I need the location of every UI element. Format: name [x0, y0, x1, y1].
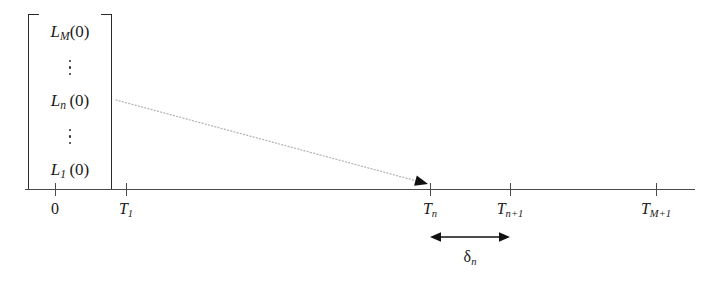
arrowhead-icon: [414, 176, 428, 186]
axis-tick-3: [510, 183, 511, 196]
vector-entry-LM: LM(0): [51, 23, 90, 43]
timeline-figure: LM(0) Ln (0) L1 (0) 0T1TnTn+1TM+1: [0, 0, 710, 296]
delta-interval-arrow: [420, 228, 520, 246]
axis-tick-label-1: T1: [119, 200, 133, 219]
axis-tick-2: [430, 183, 431, 196]
delta-arrow-right-head-icon: [499, 232, 510, 241]
delta-n-label: δn: [464, 248, 477, 267]
vertical-ellipsis-upper: [69, 56, 71, 79]
initial-lengths-vector: LM(0) Ln (0) L1 (0): [28, 14, 112, 190]
axis-tick-label-2: Tn: [423, 200, 437, 219]
axis-tick-label-3: Tn+1: [497, 200, 524, 219]
vertical-ellipsis-lower: [69, 125, 71, 148]
axis-tick-1: [126, 183, 127, 196]
vector-entry-Ln: Ln (0): [51, 92, 89, 112]
left-bracket: [28, 14, 39, 190]
vector-entry-L1: L1 (0): [51, 161, 89, 181]
axis-tick-4: [656, 183, 657, 196]
axis-tick-label-4: TM+1: [641, 200, 671, 219]
right-bracket: [101, 14, 112, 190]
axis-tick-0: [55, 183, 56, 196]
vector-entries: LM(0) Ln (0) L1 (0): [39, 14, 101, 190]
dotted-line: [116, 100, 417, 181]
axis-tick-label-0: 0: [51, 200, 59, 218]
delta-arrow-left-head-icon: [430, 232, 441, 241]
